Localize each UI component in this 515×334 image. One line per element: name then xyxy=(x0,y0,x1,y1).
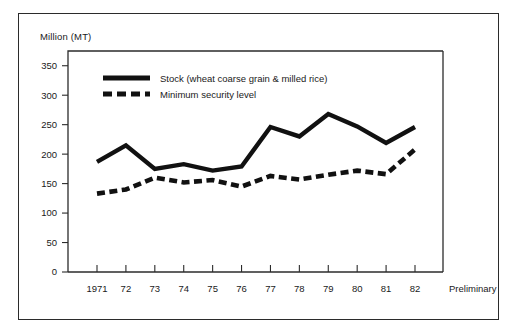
x-axis-tick-labels: 19717273747576777879808182 xyxy=(86,283,420,294)
y-tick-label: 250 xyxy=(41,119,57,130)
y-tick-label: 50 xyxy=(46,237,57,248)
y-axis-ticks xyxy=(62,66,68,272)
x-tick-label: 72 xyxy=(121,283,132,294)
y-tick-label: 350 xyxy=(41,60,57,71)
x-tick-label: 75 xyxy=(207,283,218,294)
x-tick-label: 76 xyxy=(236,283,247,294)
legend-label-stock: Stock (wheat coarse grain & milled rice) xyxy=(160,73,327,84)
legend-label-minimum-security: Minimum security level xyxy=(160,89,256,100)
x-axis-ticks xyxy=(97,265,415,272)
y-tick-label: 150 xyxy=(41,178,57,189)
y-axis-tick-labels: 050100150200250300350 xyxy=(41,60,57,277)
x-tick-label: 77 xyxy=(265,283,276,294)
x-tick-label: 78 xyxy=(294,283,305,294)
x-tick-label: 82 xyxy=(410,283,421,294)
y-tick-label: 100 xyxy=(41,207,57,218)
x-tick-label: 81 xyxy=(381,283,392,294)
chart-legend: Stock (wheat coarse grain & milled rice)… xyxy=(103,73,327,100)
y-tick-label: 300 xyxy=(41,90,57,101)
chart-figure: Million (MT) 050100150200250300350 19717… xyxy=(0,0,515,334)
x-tick-label: 73 xyxy=(150,283,161,294)
y-tick-label: 200 xyxy=(41,149,57,160)
preliminary-annotation: Preliminary xyxy=(449,283,497,294)
y-tick-label: 0 xyxy=(52,266,57,277)
x-tick-label: 1971 xyxy=(86,283,107,294)
plot-axes xyxy=(68,51,443,272)
x-tick-label: 74 xyxy=(178,283,189,294)
x-tick-label: 79 xyxy=(323,283,334,294)
x-tick-label: 80 xyxy=(352,283,363,294)
series-line-minimum-security xyxy=(97,149,415,193)
series-line-stock xyxy=(97,114,415,171)
plot-canvas: 050100150200250300350 197172737475767778… xyxy=(0,0,515,334)
